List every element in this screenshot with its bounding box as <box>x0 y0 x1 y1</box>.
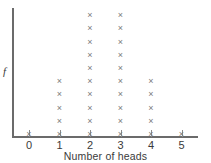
data-mark: × <box>25 130 34 139</box>
data-mark: × <box>55 90 64 99</box>
data-mark: × <box>116 38 125 47</box>
data-mark: × <box>116 117 125 126</box>
data-mark: × <box>55 104 64 113</box>
dot-plot-chart: f 012345 ×××××××××××××××××××××××××××××××… <box>0 0 211 163</box>
data-mark: × <box>116 104 125 113</box>
data-mark: × <box>116 11 125 20</box>
data-mark: × <box>86 117 95 126</box>
data-mark: × <box>177 130 186 139</box>
data-mark: × <box>116 64 125 73</box>
data-mark: × <box>86 24 95 33</box>
data-mark: × <box>116 130 125 139</box>
data-mark: × <box>116 77 125 86</box>
data-mark: × <box>86 38 95 47</box>
data-mark: × <box>86 77 95 86</box>
data-mark: × <box>116 24 125 33</box>
data-mark: × <box>116 51 125 60</box>
data-mark: × <box>147 77 156 86</box>
data-mark: × <box>86 104 95 113</box>
data-mark: × <box>147 130 156 139</box>
data-mark: × <box>116 90 125 99</box>
data-mark: × <box>86 90 95 99</box>
data-mark: × <box>147 104 156 113</box>
data-mark: × <box>147 90 156 99</box>
data-mark: × <box>55 77 64 86</box>
data-mark: × <box>86 11 95 20</box>
data-mark: × <box>55 117 64 126</box>
data-mark: × <box>55 130 64 139</box>
y-axis-label: f <box>3 65 6 77</box>
y-axis-line <box>12 8 14 138</box>
x-axis-title: Number of heads <box>0 150 211 162</box>
data-mark: × <box>86 130 95 139</box>
data-mark: × <box>86 64 95 73</box>
data-mark: × <box>86 51 95 60</box>
data-mark: × <box>147 117 156 126</box>
x-axis-line <box>12 136 198 138</box>
